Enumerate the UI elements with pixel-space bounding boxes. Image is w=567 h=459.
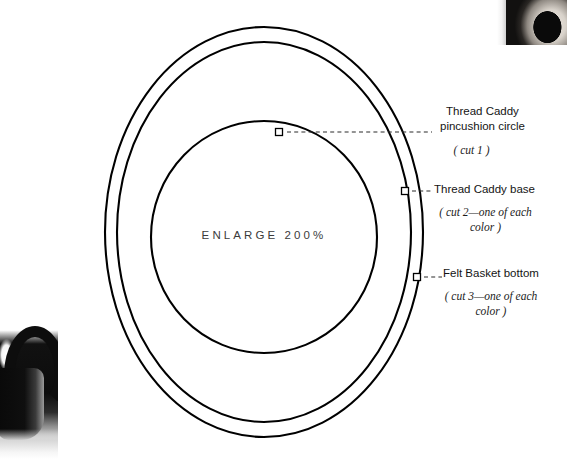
callout-pincushion-cut-note: ( cut 1 ) [440,134,525,157]
callout-caddy-base-cut-note-line1: ( cut 2—one of each [436,205,535,220]
callout-felt-basket-cut-note: ( cut 3—one of each color ) [443,281,539,319]
pattern-template-page: ENLARGE 200% Thread Caddy pincushion cir… [0,0,567,459]
callout-felt-basket-label: Felt Basket bottom [443,266,539,281]
callout-felt-basket-cut-note-line1: ( cut 3—one of each [443,289,539,304]
callout-pincushion-circle: Thread Caddy pincushion circle ( cut 1 ) [440,104,525,157]
callout-caddy-base-label: Thread Caddy base [434,182,535,197]
callout-thread-caddy-base: Thread Caddy base ( cut 2—one of each co… [434,182,535,235]
callout-felt-basket-bottom: Felt Basket bottom ( cut 3—one of each c… [443,266,539,319]
marker-square-caddy-base [402,188,409,195]
callout-felt-basket-cut-note-line2: color ) [443,304,539,319]
callout-caddy-base-cut-note-line2: color ) [436,220,535,235]
callout-pincushion-label-line2: pincushion circle [440,119,525,134]
marker-square-felt-basket [414,274,421,281]
callout-caddy-base-cut-note: ( cut 2—one of each color ) [434,197,535,235]
enlarge-instruction-text: ENLARGE 200% [202,229,327,241]
marker-square-pincushion [276,129,283,136]
callout-pincushion-label-line1: Thread Caddy [440,104,525,119]
